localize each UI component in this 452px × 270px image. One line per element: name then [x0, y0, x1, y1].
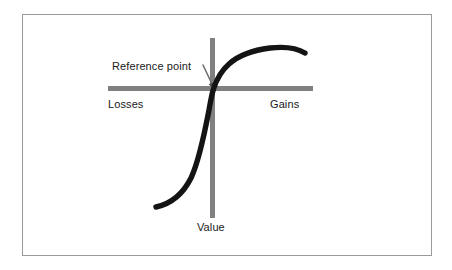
value-axis-label: Value: [197, 221, 225, 233]
losses-axis-label: Losses: [108, 98, 143, 110]
gains-axis-label: Gains: [270, 98, 299, 110]
value-function-plot: [0, 0, 452, 270]
y-axis: [210, 38, 215, 218]
reference-point-label: Reference point: [112, 60, 191, 72]
figure-root: Reference point Losses Gains Value: [0, 0, 452, 270]
